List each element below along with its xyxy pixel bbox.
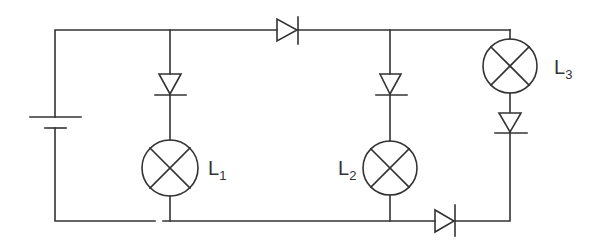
diode-branch3-icon xyxy=(495,113,527,133)
label-l2: L2 xyxy=(338,158,356,182)
circuit-canvas xyxy=(0,0,598,245)
diode-bottom-icon xyxy=(435,205,455,236)
diode-branch2-icon xyxy=(376,74,407,95)
label-l1: L1 xyxy=(208,158,226,182)
lamp-l1-icon xyxy=(142,140,198,196)
diode-branch1-icon xyxy=(155,74,186,95)
lamp-l3-icon xyxy=(483,39,537,93)
lamp-l2-icon xyxy=(363,141,417,195)
battery-icon xyxy=(30,117,81,128)
wires xyxy=(55,30,510,221)
diode-top-icon xyxy=(277,17,298,44)
circuit-diagram: L1 L2 L3 xyxy=(0,0,598,245)
label-l3: L3 xyxy=(554,57,572,81)
